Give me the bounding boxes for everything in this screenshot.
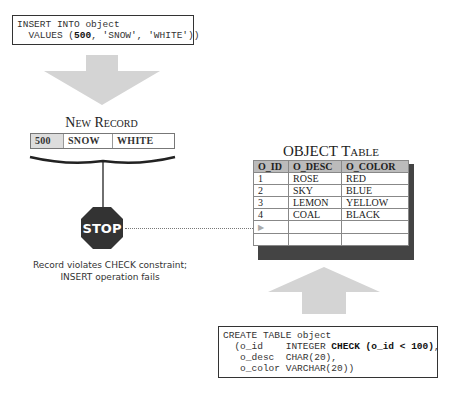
object-table: O_ID O_DESC O_COLOR 1 ROSE RED 2 SKY BLU… — [253, 160, 409, 246]
table-header-row: O_ID O_DESC O_COLOR — [254, 161, 409, 173]
cell-desc — [289, 234, 342, 246]
insert-line-2-prefix: VALUES ( — [17, 30, 74, 41]
stop-sign-icon: STOP — [80, 206, 124, 250]
failure-caption: Record violates CHECK constraint; INSERT… — [20, 259, 200, 283]
svg-text:STOP: STOP — [83, 221, 122, 236]
header-o-desc: O_DESC — [289, 161, 342, 173]
cell-color — [342, 221, 409, 234]
cell-id: 2 — [254, 185, 289, 197]
create-line-1: CREATE TABLE object — [223, 330, 331, 341]
dotted-connector — [125, 228, 255, 229]
header-o-color: O_COLOR — [342, 161, 409, 173]
table-row-empty — [254, 234, 409, 246]
down-arrow-icon — [42, 55, 162, 107]
create-line-2-prefix: (o_id INTEGER — [223, 341, 331, 352]
cell-desc: SKY — [289, 185, 342, 197]
new-record-desc: SNOW — [64, 134, 113, 148]
cell-id — [254, 234, 289, 246]
up-arrow-icon — [266, 266, 382, 316]
table-row: 2 SKY BLUE — [254, 185, 409, 197]
insert-line-1: INSERT INTO object — [17, 19, 120, 30]
header-o-id: O_ID — [254, 161, 289, 173]
cell-desc: COAL — [289, 209, 342, 221]
insert-line-2-suffix: , 'SNOW', 'WHITE')) — [91, 30, 199, 41]
cell-color: BLACK — [342, 209, 409, 221]
cell-id: 4 — [254, 209, 289, 221]
create-line-2-suffix: , — [434, 341, 440, 352]
brace-icon — [28, 152, 178, 212]
cell-color — [342, 234, 409, 246]
cell-id: 3 — [254, 197, 289, 209]
table-row: 1 ROSE RED — [254, 173, 409, 185]
create-line-3: o_desc CHAR(20), — [223, 352, 337, 363]
cell-color: BLUE — [342, 185, 409, 197]
new-record-color: WHITE — [113, 134, 174, 148]
cell-id: 1 — [254, 173, 289, 185]
new-record-title: New Record — [30, 115, 173, 131]
create-line-4: o_color VARCHAR(20)) — [223, 363, 354, 374]
new-record-row: 500 SNOW WHITE — [30, 133, 175, 149]
insert-value-500: 500 — [74, 30, 91, 41]
cell-desc: ROSE — [289, 173, 342, 185]
caption-line-2: INSERT operation fails — [20, 271, 200, 283]
object-table-title: OBJECT Table — [253, 143, 409, 160]
table-row: 3 LEMON YELLOW — [254, 197, 409, 209]
cell-desc — [289, 221, 342, 234]
create-table-statement-box: CREATE TABLE object (o_id INTEGER CHECK … — [218, 326, 438, 378]
cell-id: ▶ — [254, 221, 289, 234]
table-row: 4 COAL BLACK — [254, 209, 409, 221]
insert-pointer-icon: ▶ — [258, 223, 264, 232]
table-row-new: ▶ — [254, 221, 409, 234]
caption-line-1: Record violates CHECK constraint; — [20, 259, 200, 271]
check-constraint: CHECK (o_id < 100) — [331, 341, 434, 352]
cell-color: RED — [342, 173, 409, 185]
new-record-id: 500 — [31, 134, 64, 148]
insert-statement-box: INSERT INTO object VALUES (500, 'SNOW', … — [12, 15, 194, 45]
cell-desc: LEMON — [289, 197, 342, 209]
cell-color: YELLOW — [342, 197, 409, 209]
